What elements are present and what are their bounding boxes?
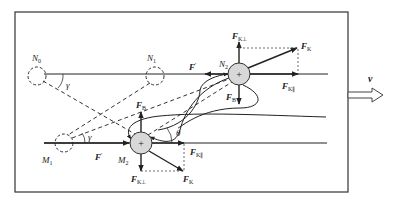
label-m1: M1: [41, 155, 53, 166]
plus-icon: +: [236, 69, 242, 80]
physics-force-diagram: v + + N0 N1 N2 M1 M2: [0, 0, 394, 203]
gamma-arc-top: [58, 74, 63, 88]
label-f-prime-bottom: F′: [94, 152, 103, 162]
label-f-prime-top: F′: [188, 62, 197, 72]
velocity-arrow: [348, 88, 383, 102]
reference-frame-box: [15, 12, 348, 192]
force-fk-bottom-arrow: [149, 151, 183, 171]
loop-trajectory-upper: [178, 85, 258, 128]
label-n0: N0: [31, 53, 41, 64]
label-fb-bottom: FB: [135, 100, 146, 111]
label-fk-bottom: FK: [182, 174, 194, 185]
charge-n2: +: [228, 63, 250, 85]
point-n1-dashed-circle: [146, 67, 164, 85]
label-fk-perp-top: FK⊥: [231, 31, 247, 42]
loop-trajectory-lower: [128, 114, 326, 139]
label-fk-top: FK: [300, 41, 312, 52]
point-n0-dashed-circle: [28, 67, 46, 85]
label-n1: N1: [146, 53, 156, 64]
label-n2: N2: [218, 59, 228, 70]
label-theta: θ: [176, 128, 181, 138]
label-m2: M2: [117, 155, 129, 166]
label-fk-par-top: FK∥: [281, 81, 295, 93]
curved-trajectory: [150, 78, 229, 141]
charge-m2: +: [130, 132, 152, 154]
label-gamma-top: γ: [66, 80, 70, 90]
plus-icon: +: [138, 138, 144, 149]
gamma-arc-bottom: [82, 133, 85, 143]
label-fb-top: FB: [225, 92, 236, 103]
label-fk-par-bottom: FK∥: [189, 147, 203, 159]
velocity-label: v: [368, 73, 373, 84]
label-gamma-bottom: γ: [88, 132, 92, 142]
force-fk-top-arrow: [248, 48, 297, 68]
label-fk-perp-bottom: FK⊥: [130, 174, 146, 185]
